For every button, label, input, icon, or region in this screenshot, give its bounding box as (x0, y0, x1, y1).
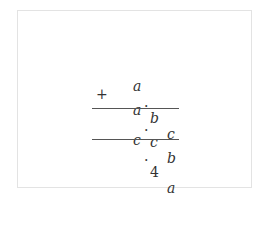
sum-rule-bottom (92, 139, 179, 140)
sum-decimal-point: . (144, 148, 148, 164)
addend-1-row: a . b c (0, 62, 266, 78)
sum-row: c . 4 a (0, 116, 266, 132)
sum-digit-2: 4 (150, 164, 159, 180)
sum-digit-3: a (167, 180, 175, 194)
sum-digit-1: c (133, 132, 141, 148)
sum-rule-top (92, 108, 179, 109)
addend-2-row: a . c b (0, 86, 266, 102)
addend-2-digit-3: b (167, 150, 176, 166)
addend-2-digit-2: c (150, 134, 158, 150)
